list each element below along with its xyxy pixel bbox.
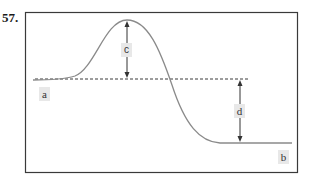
label-d: d <box>234 104 245 118</box>
label-a: a <box>39 87 50 101</box>
label-c: c <box>121 43 132 57</box>
label-b: b <box>278 150 289 164</box>
diagram-frame <box>26 13 298 173</box>
energy-curve <box>33 20 292 143</box>
